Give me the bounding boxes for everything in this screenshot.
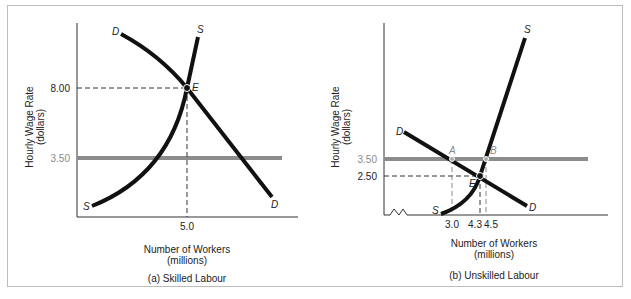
panel-b-demand-label-bottom: D [529, 202, 536, 213]
panel-b-point-b-label: B [490, 145, 497, 156]
panel-b-xtick-4-3: 4.3 [468, 219, 482, 230]
panel-b-ytick-2-50: 2.50 [358, 171, 378, 182]
panel-b-x-axis-with-break [384, 209, 608, 215]
panel-a-demand-label-bottom: D [271, 199, 278, 210]
panel-b-y-units: (dollars) [341, 109, 352, 145]
panel-a-skilled-labour: D S E S D 8.00 3.50 5.0 Number of Worker… [24, 23, 298, 284]
panel-b-xtick-3-0: 3.0 [445, 219, 459, 230]
panel-b-title: (b) Unskilled Labour [449, 270, 539, 281]
panel-b-unskilled-labour: D S A B E S D 3.50 2.50 3.0 4.3 4.5 Numb… [330, 23, 608, 281]
panel-a-equilibrium-label: E [192, 82, 199, 93]
panel-b-equilibrium-point [477, 173, 484, 180]
panel-a-supply-label-bottom: S [83, 201, 90, 212]
panel-a-ytick-3-50: 3.50 [51, 153, 71, 164]
panel-a-ytick-8: 8.00 [51, 83, 71, 94]
panel-a-xtick-5: 5.0 [180, 221, 194, 232]
panel-b-y-label: Hourly Wage Rate [330, 86, 341, 168]
panel-b-point-b [484, 157, 489, 162]
panel-b-equilibrium-label: E [469, 178, 476, 189]
panel-b-ytick-3-50: 3.50 [358, 154, 378, 165]
panel-a-supply-label-top: S [197, 24, 204, 35]
panel-a-x-units: (millions) [167, 255, 207, 266]
panel-b-x-units: (millions) [474, 249, 514, 260]
panel-b-point-a-label: A [448, 145, 456, 156]
panel-b-supply-label-top: S [524, 24, 531, 35]
panel-a-demand-label-top: D [112, 26, 119, 37]
panel-a-y-units: (dollars) [35, 109, 46, 145]
chart-canvas: D S E S D 8.00 3.50 5.0 Number of Worker… [0, 0, 631, 299]
panel-b-supply-label-bottom: S [432, 205, 439, 216]
panel-b-xtick-4-5: 4.5 [484, 219, 498, 230]
panel-a-supply-curve [92, 37, 198, 206]
panel-b-x-label: Number of Workers [451, 238, 538, 249]
panel-b-point-a [450, 157, 455, 162]
panel-b-supply-curve [441, 38, 525, 214]
panel-b-demand-curve [404, 132, 527, 206]
panel-a-equilibrium-point [184, 85, 191, 92]
panel-a-y-label: Hourly Wage Rate [24, 86, 35, 168]
panel-a-title: (a) Skilled Labour [148, 273, 227, 284]
panel-a-x-label: Number of Workers [144, 244, 231, 255]
panel-b-demand-label-top: D [396, 126, 403, 137]
